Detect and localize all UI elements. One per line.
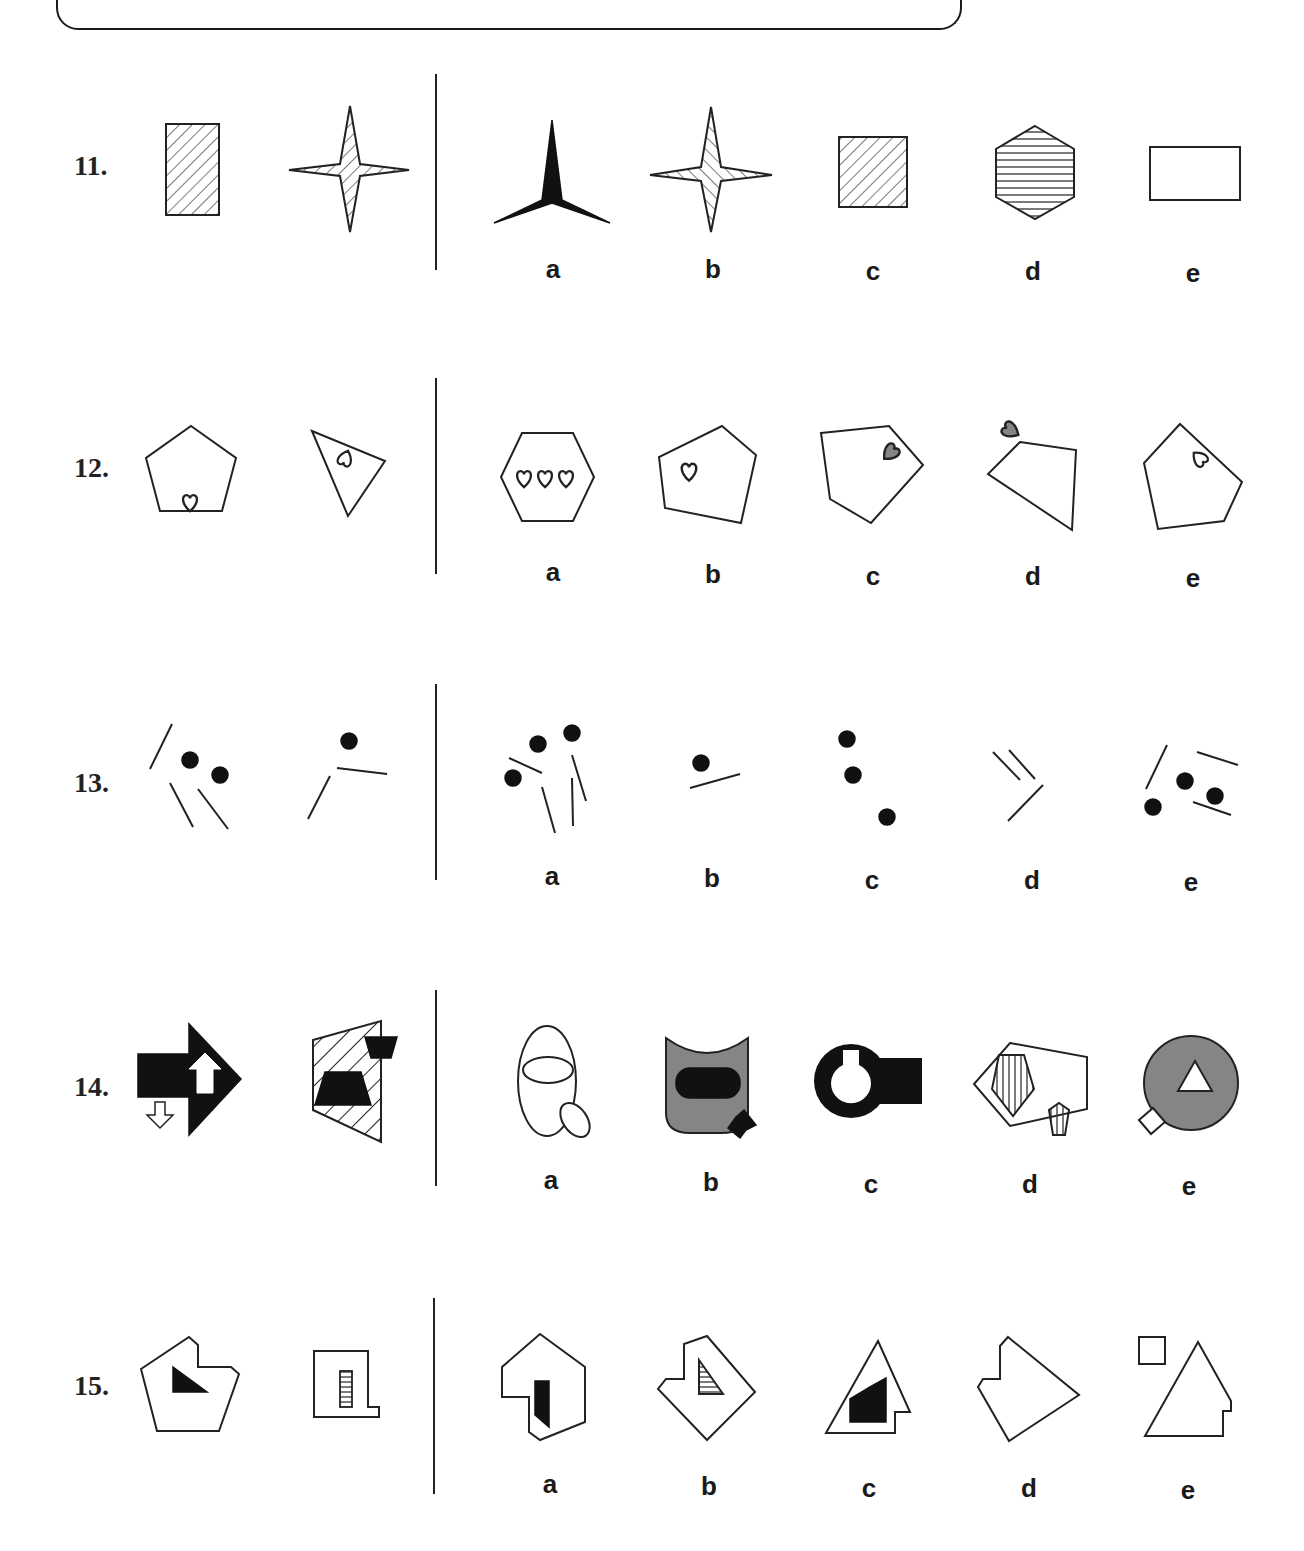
option-c-dots (830, 725, 910, 835)
option-e-pentagon-heart-edge (1138, 420, 1253, 535)
option-label[interactable]: d (1009, 1473, 1049, 1504)
option-d-notched-diamond (973, 1330, 1083, 1445)
black-arrow-figure (130, 1020, 250, 1140)
option-label[interactable]: b (692, 863, 732, 894)
option-label[interactable]: c (853, 561, 893, 592)
triangle-heart-figure (305, 425, 395, 520)
hatched-rectangle-figure (160, 118, 226, 220)
option-label[interactable]: d (1013, 256, 1053, 287)
question-number: 14. (74, 1071, 109, 1103)
option-c-black-ring (810, 1040, 930, 1120)
option-d-hexagon-striped (970, 1030, 1100, 1140)
divider (435, 378, 437, 574)
option-c-notched-triangle (820, 1335, 920, 1443)
question-number: 12. (74, 452, 109, 484)
option-d-quad-grey-heart (982, 420, 1087, 535)
option-label[interactable]: d (1012, 865, 1052, 896)
divider (433, 1298, 435, 1494)
option-label[interactable]: e (1168, 1475, 1208, 1506)
option-label[interactable]: c (851, 1169, 891, 1200)
notched-rectangle-figure (310, 1345, 390, 1425)
header-panel (56, 0, 962, 30)
option-e-lines-dots (1138, 735, 1248, 830)
option-label[interactable]: c (852, 865, 892, 896)
option-d-striped-hexagon (990, 122, 1080, 222)
pentagon-heart-figure (140, 420, 240, 515)
option-d-lines (980, 740, 1080, 830)
option-label[interactable]: d (1013, 561, 1053, 592)
option-label[interactable]: b (691, 1167, 731, 1198)
option-b-notched-diamond (652, 1330, 762, 1445)
option-e-grey-circle (1135, 1030, 1245, 1135)
option-label[interactable]: e (1173, 258, 1213, 289)
option-label[interactable]: a (531, 1165, 571, 1196)
option-label[interactable]: c (849, 1473, 889, 1504)
option-label[interactable]: e (1173, 563, 1213, 594)
hatched-quad-figure (305, 1015, 405, 1145)
option-label[interactable]: a (530, 1469, 570, 1500)
option-label[interactable]: e (1171, 867, 1211, 898)
option-label[interactable]: b (689, 1471, 729, 1502)
option-label[interactable]: d (1010, 1169, 1050, 1200)
option-label[interactable]: a (533, 557, 573, 588)
option-b-grey-shield (660, 1030, 760, 1140)
option-a-black-star (490, 115, 615, 230)
question-number: 15. (74, 1370, 109, 1402)
option-a-hexagon-hearts (495, 425, 600, 520)
question-number: 13. (74, 767, 109, 799)
option-c-pentagon-grey-heart (815, 420, 930, 530)
option-label[interactable]: a (532, 861, 572, 892)
option-a-lines-dots (495, 718, 605, 843)
option-label[interactable]: b (693, 559, 733, 590)
lines-dots-figure (140, 715, 240, 835)
option-b-pentagon-heart (655, 420, 765, 530)
option-a-ellipses (510, 1020, 600, 1145)
option-e-empty-rectangle (1145, 142, 1245, 204)
divider (435, 684, 437, 880)
notched-pentagon-figure (135, 1330, 245, 1440)
option-b-hatched-star (648, 105, 778, 235)
hatched-star-figure (285, 100, 415, 240)
option-e-triangle-and-rectangle (1135, 1333, 1240, 1443)
lines-dot-figure (300, 725, 400, 825)
question-number: 11. (74, 150, 107, 182)
option-label[interactable]: c (853, 256, 893, 287)
option-label[interactable]: a (533, 254, 573, 285)
option-a-notched-hexagon (495, 1328, 600, 1443)
divider (435, 74, 437, 270)
option-label[interactable]: e (1169, 1171, 1209, 1202)
option-b-line-dot (680, 745, 750, 795)
option-c-hatched-square (834, 132, 912, 212)
option-label[interactable]: b (693, 254, 733, 285)
divider (435, 990, 437, 1186)
